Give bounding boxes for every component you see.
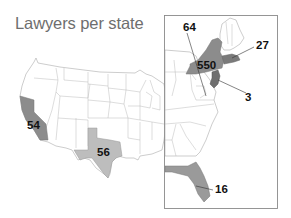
- label-texas: 56: [97, 146, 110, 158]
- label-california: 54: [27, 119, 40, 131]
- label-dc: 64: [183, 21, 196, 33]
- label-massachusetts: 27: [256, 39, 269, 51]
- label-new-jersey: 3: [245, 91, 251, 103]
- us-map: 54 56 550 64 27 3 16: [0, 0, 291, 218]
- label-florida: 16: [215, 183, 228, 195]
- label-new-york: 550: [197, 59, 216, 71]
